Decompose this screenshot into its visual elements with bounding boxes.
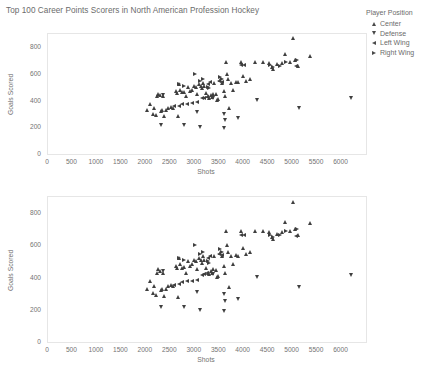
triangle-up-icon <box>271 67 275 71</box>
triangle-down-icon <box>223 118 227 122</box>
triangle-up-icon <box>215 275 219 279</box>
triangle-up-icon <box>148 102 152 106</box>
x-axis-tick-label: 5000 <box>284 158 299 165</box>
legend-item-defense[interactable]: Defense <box>370 29 438 39</box>
triangle-up-icon <box>190 262 194 266</box>
legend-item-right-wing[interactable]: Right Wing <box>370 48 438 58</box>
triangle-up-icon <box>177 82 181 86</box>
triangle-up-icon <box>207 272 211 276</box>
triangle-up-icon <box>184 94 188 98</box>
triangle-up-icon <box>226 77 230 81</box>
triangle-left-icon <box>220 80 224 84</box>
x-axis-tick-label: 2500 <box>162 158 177 165</box>
triangle-up-icon <box>194 259 198 263</box>
triangle-up-icon <box>220 254 224 258</box>
x-axis-tick-label: 2000 <box>138 158 153 165</box>
y-axis-tick-label: 200 <box>15 305 41 312</box>
x-axis-tick-label: 4000 <box>235 346 250 353</box>
data-points-layer <box>48 197 366 342</box>
triangle-right-icon <box>278 64 282 68</box>
triangle-up-icon <box>253 60 257 64</box>
triangle-up-icon <box>161 94 165 98</box>
triangle-up-icon <box>261 229 265 233</box>
triangle-up-icon <box>166 106 170 110</box>
x-axis-tick-label: 2500 <box>162 346 177 353</box>
legend-item-label: Center <box>380 20 401 27</box>
x-axis-tick-label: 500 <box>66 158 77 165</box>
triangle-right-icon <box>271 235 275 239</box>
triangle-left-icon <box>200 273 204 277</box>
triangle-up-icon <box>291 36 295 40</box>
x-axis-tick-label: 3000 <box>186 158 201 165</box>
triangle-up-icon <box>161 271 165 275</box>
triangle-right-icon <box>218 247 222 251</box>
triangle-up-icon <box>283 52 287 56</box>
triangle-left-icon <box>177 104 181 108</box>
triangle-up-icon <box>241 246 245 250</box>
legend-item-label: Defense <box>380 30 406 37</box>
triangle-up-icon <box>159 109 163 113</box>
x-axis-tick-label: 2000 <box>138 346 153 353</box>
triangle-up-icon <box>236 80 240 84</box>
legend-item-center[interactable]: Center <box>370 19 438 29</box>
triangle-right-icon <box>206 259 210 263</box>
triangle-down-icon <box>297 285 301 289</box>
triangle-up-icon <box>197 256 201 260</box>
y-axis-tick-label: 0 <box>15 150 41 157</box>
triangle-right-icon <box>284 60 288 64</box>
triangle-right-icon <box>182 258 186 262</box>
y-axis-label: Goals Scored <box>7 249 14 290</box>
triangle-left-icon <box>239 63 243 67</box>
triangle-up-icon <box>288 229 292 233</box>
triangle-up-icon <box>155 271 159 275</box>
triangle-down-icon <box>159 305 163 309</box>
triangle-left-icon <box>195 100 199 104</box>
triangle-up-icon <box>211 267 215 271</box>
legend-item-left-wing[interactable]: Left Wing <box>370 38 438 48</box>
triangle-up-icon <box>162 294 166 298</box>
triangle-up-icon <box>220 81 224 85</box>
triangle-left-icon <box>205 95 209 99</box>
triangle-up-icon <box>210 271 214 275</box>
legend-item-label: Left Wing <box>380 39 410 46</box>
triangle-up-icon <box>195 92 199 96</box>
y-axis-tick-label: 0 <box>15 338 41 345</box>
triangle-up-icon <box>253 229 257 233</box>
triangle-up-icon <box>178 88 182 92</box>
triangle-up-icon <box>225 243 229 247</box>
triangle-left-icon <box>180 102 184 106</box>
triangle-up-icon <box>267 230 271 234</box>
triangle-up-icon <box>156 267 160 271</box>
triangle-left-icon <box>177 282 181 286</box>
triangle-up-icon <box>207 96 211 100</box>
triangle-up-icon <box>206 94 210 98</box>
triangle-up-icon <box>229 81 233 85</box>
triangle-up-icon <box>234 253 238 257</box>
triangle-down-icon <box>222 112 226 116</box>
page-title: Top 100 Career Points Scorers in North A… <box>6 6 259 15</box>
triangle-up-icon <box>275 62 279 66</box>
triangle-up-icon <box>171 106 175 110</box>
triangle-up-icon <box>197 82 201 86</box>
plot-area[interactable] <box>47 33 367 155</box>
triangle-down-icon <box>198 125 202 129</box>
triangle-up-icon <box>204 91 208 95</box>
triangle-up-icon <box>204 266 208 270</box>
triangle-up-icon <box>201 81 205 85</box>
triangle-down-icon <box>211 96 215 100</box>
x-axis-tick-label: 0 <box>45 158 49 165</box>
triangle-up-icon <box>308 221 312 225</box>
triangle-up-icon <box>209 269 213 273</box>
triangle-right-icon <box>278 233 282 237</box>
triangle-up-icon <box>154 293 158 297</box>
triangle-up-icon <box>283 220 287 224</box>
x-axis-tick-label: 3500 <box>211 346 226 353</box>
triangle-left-icon <box>205 271 209 275</box>
data-points-layer <box>48 34 366 154</box>
triangle-up-icon <box>231 262 235 266</box>
plot-area[interactable] <box>47 196 367 343</box>
triangle-right-icon <box>177 82 181 86</box>
triangle-up-icon <box>218 251 222 255</box>
x-axis-tick-label: 5000 <box>284 346 299 353</box>
x-axis-tick-label: 1500 <box>113 346 128 353</box>
